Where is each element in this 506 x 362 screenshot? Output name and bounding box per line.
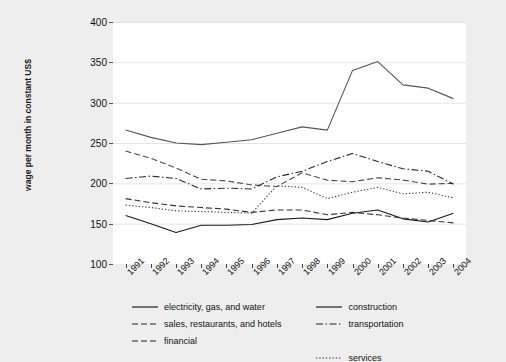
y-tick-label: 400 <box>61 17 107 28</box>
chart-figure: wage per month in constant US$ 100150200… <box>0 0 506 362</box>
legend-line-solid-icon <box>132 302 158 312</box>
legend-label: transportation <box>348 319 403 329</box>
legend-row: financial <box>132 334 462 347</box>
legend-item[interactable]: sales, restaurants, and hotels <box>132 319 316 329</box>
y-tick-label: 100 <box>61 259 107 270</box>
legend-line-dashed-icon <box>132 336 158 346</box>
legend-label: construction <box>348 302 397 312</box>
legend-line-dashed-icon <box>132 319 158 329</box>
plot-canvas <box>113 22 466 264</box>
data-lines <box>113 22 466 264</box>
y-tick-label: 200 <box>61 178 107 189</box>
legend-item[interactable]: financial <box>132 336 316 346</box>
plot-area <box>113 22 466 264</box>
legend-line-dotted-icon <box>316 353 342 362</box>
chart-legend: electricity, gas, and waterconstructions… <box>132 300 462 362</box>
y-tick-label: 300 <box>61 97 107 108</box>
legend-line-solid-icon <box>316 302 342 312</box>
y-tick-label: 250 <box>61 138 107 149</box>
y-tick-label: 150 <box>61 218 107 229</box>
legend-item[interactable]: construction <box>316 302 462 312</box>
legend-label: financial <box>164 336 197 346</box>
legend-item[interactable]: transportation <box>316 319 462 329</box>
legend-item[interactable]: services <box>316 353 462 362</box>
legend-label: services <box>348 353 381 362</box>
y-tick-label: 350 <box>61 57 107 68</box>
legend-row: electricity, gas, and waterconstruction <box>132 300 462 313</box>
y-axis-title: wage per month in constant US$ <box>23 25 33 225</box>
legend-label: sales, restaurants, and hotels <box>164 319 282 329</box>
legend-row: services <box>132 351 462 362</box>
legend-label: electricity, gas, and water <box>164 302 265 312</box>
legend-item[interactable]: electricity, gas, and water <box>132 302 316 312</box>
legend-row: sales, restaurants, and hotelstransporta… <box>132 317 462 330</box>
legend-line-dashdot-icon <box>316 319 342 329</box>
